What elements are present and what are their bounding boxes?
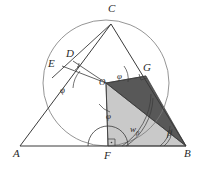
geometry-figure: A B C D E F G O φ φ φ wβ β bbox=[0, 0, 203, 169]
diagram-canvas bbox=[0, 0, 203, 169]
right-angle-dot-d bbox=[77, 66, 79, 68]
right-angle-dot-f bbox=[111, 142, 113, 144]
segment-e-c bbox=[52, 24, 111, 78]
